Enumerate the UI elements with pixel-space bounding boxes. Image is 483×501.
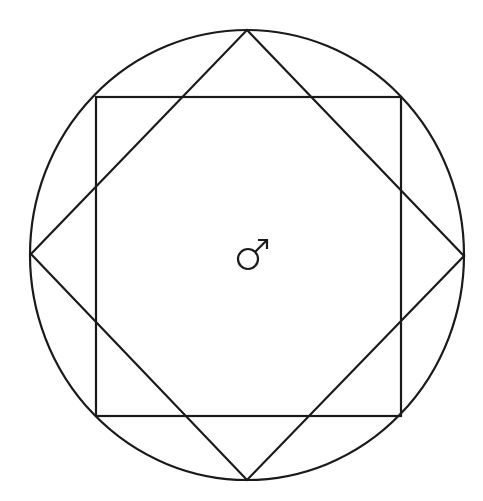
diagram-canvas: [0, 0, 483, 501]
mars-symbol-icon: [238, 240, 267, 269]
